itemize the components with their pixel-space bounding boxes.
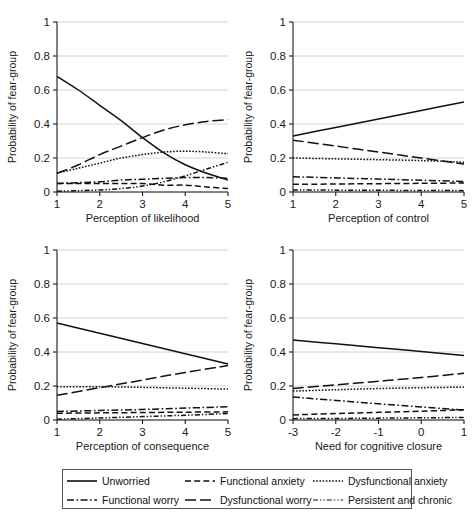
legend-label-functional-anxiety: Functional anxiety [220, 475, 305, 487]
x-tick-label-3: 4 [182, 198, 189, 210]
legend-item-functional-anxiety: Functional anxiety [185, 471, 313, 490]
y-tick-label-0: 0 [44, 414, 50, 426]
y-tick-label-2: 0.4 [270, 346, 287, 358]
x-tick-label-4: 1 [461, 426, 467, 438]
y-tick-label-2: 0.4 [34, 346, 51, 358]
x-tick-label-2: 3 [139, 198, 145, 210]
y-tick-label-0: 0 [280, 186, 286, 198]
series-line-unworried [57, 76, 228, 180]
panel-top-right: 00.20.40.60.8112345Perception of control… [236, 0, 472, 225]
series-line-dysfunctional-anxiety [293, 387, 464, 391]
x-tick-label-3: 4 [418, 198, 425, 210]
legend: Unworried Functional anxiety Dysfunction… [62, 469, 412, 509]
series-line-functional-worry [57, 407, 228, 412]
legend-item-unworried: Unworried [67, 471, 185, 490]
legend-label-dysfunctional-worry: Dysfunctional worry [220, 494, 312, 506]
series-line-unworried [293, 102, 464, 136]
series-line-functional-worry [293, 397, 464, 410]
x-tick-label-4: 5 [225, 426, 231, 438]
legend-item-persistent-chronic: Persistent and chronic [313, 490, 431, 509]
y-tick-label-1: 0.2 [34, 152, 50, 164]
legend-label-unworried: Unworried [102, 475, 150, 487]
y-tick-label-2: 0.4 [270, 118, 287, 130]
y-tick-label-1: 0.2 [270, 152, 286, 164]
y-tick-label-0: 0 [44, 186, 50, 198]
x-tick-label-2: 3 [375, 198, 381, 210]
legend-item-dysfunctional-anxiety: Dysfunctional anxiety [313, 471, 431, 490]
y-axis-label: Probability of fear-group [6, 279, 18, 391]
series-line-functional-worry [57, 177, 228, 183]
x-tick-label-4: 5 [461, 198, 467, 210]
y-tick-label-5: 1 [44, 16, 50, 28]
legend-key-dysfunctional-anxiety [313, 476, 343, 486]
x-tick-label-0: 1 [290, 198, 296, 210]
y-axis-label: Probability of fear-group [6, 51, 18, 163]
legend-item-dysfunctional-worry: Dysfunctional worry [185, 490, 313, 509]
series-line-functional-worry [293, 177, 464, 182]
x-tick-label-0: 1 [54, 426, 60, 438]
y-axis-label: Probability of fear-group [242, 51, 254, 163]
x-tick-label-2: 3 [139, 426, 145, 438]
legend-label-dysfunctional-anxiety: Dysfunctional anxiety [348, 475, 447, 487]
series-line-persistent-and-chronic [293, 190, 464, 191]
caption-strip [0, 512, 472, 523]
y-tick-label-3: 0.6 [34, 84, 50, 96]
y-tick-label-4: 0.8 [270, 278, 286, 290]
series-line-functional-anxiety [57, 412, 228, 413]
series-line-dysfunctional-worry [57, 366, 228, 396]
y-axis-label: Probability of fear-group [242, 279, 254, 391]
series-line-unworried [293, 340, 464, 355]
legend-grid: Unworried Functional anxiety Dysfunction… [63, 470, 411, 508]
x-tick-label-1: -2 [331, 426, 341, 438]
series-line-dysfunctional-worry [293, 140, 464, 164]
legend-key-unworried [67, 476, 97, 486]
x-axis-label: Perception of consequence [76, 440, 209, 452]
series-line-persistent-and-chronic [57, 414, 228, 420]
legend-key-functional-anxiety [185, 476, 215, 486]
legend-item-functional-worry: Functional worry [67, 490, 185, 509]
x-axis-label: Perception of likelihood [86, 212, 200, 224]
x-tick-label-3: 0 [418, 426, 424, 438]
y-tick-label-2: 0.4 [34, 118, 51, 130]
x-tick-label-0: -3 [288, 426, 298, 438]
series-line-functional-anxiety [293, 183, 464, 184]
x-tick-label-0: 1 [54, 198, 60, 210]
x-tick-label-4: 5 [225, 198, 231, 210]
legend-label-functional-worry: Functional worry [102, 494, 179, 506]
series-line-dysfunctional-anxiety [293, 158, 464, 162]
panel-top-left: 00.20.40.60.8112345Perception of likelih… [0, 0, 236, 225]
series-line-dysfunctional-worry [57, 120, 228, 174]
y-tick-label-1: 0.2 [270, 380, 286, 392]
series-line-persistent-and-chronic [293, 417, 464, 418]
legend-key-persistent-chronic [313, 495, 343, 505]
y-tick-label-5: 1 [44, 244, 50, 256]
x-tick-label-1: 2 [97, 426, 103, 438]
x-axis-label: Need for cognitive closure [315, 440, 442, 452]
y-tick-label-0: 0 [280, 414, 286, 426]
x-tick-label-1: 2 [97, 198, 103, 210]
y-tick-label-3: 0.6 [270, 84, 286, 96]
series-line-dysfunctional-anxiety [57, 387, 228, 389]
x-tick-label-2: -1 [373, 426, 383, 438]
y-tick-label-1: 0.2 [34, 380, 50, 392]
y-tick-label-5: 1 [280, 16, 286, 28]
panel-bottom-right: 00.20.40.60.81-3-2-101Need for cognitive… [236, 228, 472, 453]
legend-label-persistent-chronic: Persistent and chronic [348, 494, 452, 506]
x-tick-label-3: 4 [182, 426, 189, 438]
y-tick-label-4: 0.8 [34, 50, 50, 62]
legend-key-functional-worry [67, 495, 97, 505]
series-line-unworried [57, 323, 228, 364]
series-line-dysfunctional-anxiety [57, 151, 228, 173]
legend-key-dysfunctional-worry [185, 495, 215, 505]
y-tick-label-4: 0.8 [270, 50, 286, 62]
y-tick-label-3: 0.6 [270, 312, 286, 324]
panel-bottom-left: 00.20.40.60.8112345Perception of consequ… [0, 228, 236, 453]
x-axis-label: Perception of control [328, 212, 429, 224]
series-line-functional-anxiety [293, 410, 464, 415]
y-tick-label-3: 0.6 [34, 312, 50, 324]
y-tick-label-4: 0.8 [34, 278, 50, 290]
y-tick-label-5: 1 [280, 244, 286, 256]
figure-container: 00.20.40.60.8112345Perception of likelih… [0, 0, 472, 523]
x-tick-label-1: 2 [333, 198, 339, 210]
